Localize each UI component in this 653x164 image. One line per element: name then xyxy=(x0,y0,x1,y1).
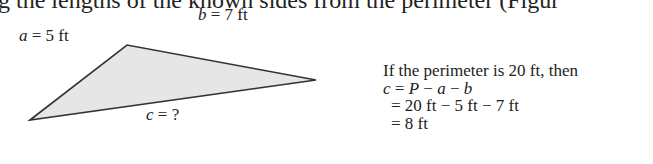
side-b-label: b = 7 ft xyxy=(198,6,248,24)
var-p: P xyxy=(409,79,419,98)
minus: − xyxy=(446,79,464,98)
side-a-label: a = 5 ft xyxy=(19,27,69,45)
side-b-variable: b xyxy=(198,5,207,24)
var-c: c xyxy=(383,79,391,98)
side-c-label: c = ? xyxy=(146,106,179,124)
minus: − xyxy=(419,79,437,98)
solution-result: = 8 ft xyxy=(383,115,578,133)
side-c-variable: c xyxy=(146,105,154,124)
side-a-value: = 5 ft xyxy=(28,26,69,45)
side-c-value: = ? xyxy=(154,105,180,124)
side-b-value: = 7 ft xyxy=(207,5,248,24)
side-a-variable: a xyxy=(19,26,28,45)
var-b: b xyxy=(464,79,473,98)
solution-substitution: = 20 ft − 5 ft − 7 ft xyxy=(383,97,578,115)
var-a: a xyxy=(437,79,446,98)
solution-intro: If the perimeter is 20 ft, then xyxy=(383,62,578,80)
solution-formula: c = P − a − b xyxy=(383,80,578,98)
solution-block: If the perimeter is 20 ft, then c = P − … xyxy=(383,62,578,132)
equals: = xyxy=(391,79,409,98)
